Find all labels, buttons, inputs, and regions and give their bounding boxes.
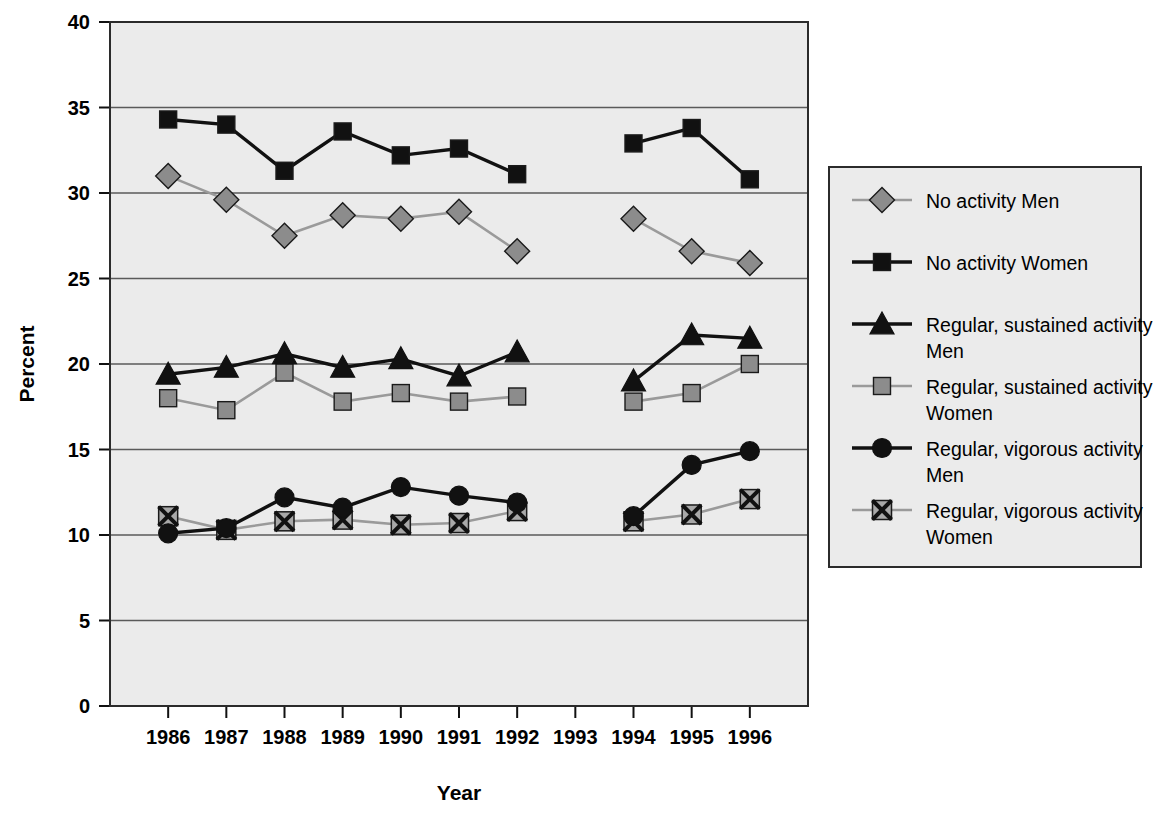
marker-circle: [508, 493, 527, 512]
marker-crossed-square: [159, 507, 178, 526]
legend-label-line2: Men: [926, 464, 964, 486]
marker-crossed-square: [391, 515, 410, 534]
x-tick-label-1993: 1993: [553, 726, 598, 748]
x-axis-title: Year: [437, 781, 481, 804]
marker-square: [683, 385, 700, 402]
marker-circle: [391, 478, 410, 497]
x-tick-label-1992: 1992: [495, 726, 540, 748]
marker-square: [874, 378, 891, 395]
y-tick-label-10: 10: [68, 524, 90, 546]
y-tick-label-25: 25: [68, 268, 90, 290]
y-tick-label-30: 30: [68, 182, 90, 204]
marker-square: [160, 390, 177, 407]
marker-circle: [740, 442, 759, 461]
marker-circle: [682, 455, 701, 474]
marker-square: [218, 402, 235, 419]
marker-square: [625, 393, 642, 410]
marker-crossed-square: [450, 514, 469, 533]
x-tick-label-1991: 1991: [437, 726, 482, 748]
legend-label: Regular, sustained activity: [926, 314, 1153, 336]
x-tick-label-1994: 1994: [611, 726, 656, 748]
legend-label-line2: Women: [926, 526, 993, 548]
marker-circle: [217, 519, 236, 538]
marker-square: [625, 135, 642, 152]
legend-label-line2: Men: [926, 340, 964, 362]
legend-item-1[interactable]: No activity Women: [852, 252, 1088, 274]
activity-trend-line-chart: 0510152025303540 19861987198819891990199…: [0, 0, 1164, 829]
legend-item-0[interactable]: No activity Men: [852, 188, 1059, 213]
marker-square: [741, 356, 758, 373]
y-tick-label-20: 20: [68, 353, 90, 375]
marker-square: [451, 393, 468, 410]
marker-square: [509, 166, 526, 183]
x-tick-label-1986: 1986: [146, 726, 191, 748]
legend-label: Regular, vigorous activity: [926, 438, 1143, 460]
marker-square: [683, 120, 700, 137]
y-tick-label-5: 5: [79, 610, 90, 632]
marker-crossed-square: [275, 512, 294, 531]
legend-label-line2: Women: [926, 402, 993, 424]
marker-crossed-square: [740, 490, 759, 509]
x-tick-label-1988: 1988: [262, 726, 307, 748]
marker-square: [451, 140, 468, 157]
marker-circle: [873, 439, 892, 458]
y-tick-label-15: 15: [68, 439, 90, 461]
marker-square: [741, 171, 758, 188]
marker-crossed-square: [873, 501, 892, 520]
marker-square: [392, 385, 409, 402]
marker-square: [276, 162, 293, 179]
y-axis-title: Percent: [15, 325, 38, 402]
marker-circle: [333, 498, 352, 517]
marker-square: [334, 393, 351, 410]
x-tick-label-1995: 1995: [669, 726, 714, 748]
y-tick-label-40: 40: [68, 11, 90, 33]
marker-square: [218, 116, 235, 133]
marker-circle: [624, 507, 643, 526]
legend-label: No activity Women: [926, 252, 1088, 274]
marker-circle: [159, 524, 178, 543]
marker-square: [160, 111, 177, 128]
chart-figure: 0510152025303540 19861987198819891990199…: [0, 0, 1164, 829]
marker-circle: [450, 486, 469, 505]
marker-crossed-square: [682, 505, 701, 524]
x-tick-label-1996: 1996: [728, 726, 773, 748]
y-tick-label-0: 0: [79, 695, 90, 717]
legend-label: No activity Men: [926, 190, 1059, 212]
marker-circle: [275, 488, 294, 507]
marker-square: [509, 388, 526, 405]
legend-label: Regular, vigorous activity: [926, 500, 1143, 522]
y-tick-label-35: 35: [68, 97, 90, 119]
marker-square: [276, 364, 293, 381]
x-tick-label-1990: 1990: [379, 726, 424, 748]
marker-square: [334, 123, 351, 140]
legend-label: Regular, sustained activity: [926, 376, 1153, 398]
x-tick-label-1987: 1987: [204, 726, 249, 748]
x-tick-label-1989: 1989: [320, 726, 365, 748]
marker-square: [392, 147, 409, 164]
marker-square: [874, 254, 891, 271]
